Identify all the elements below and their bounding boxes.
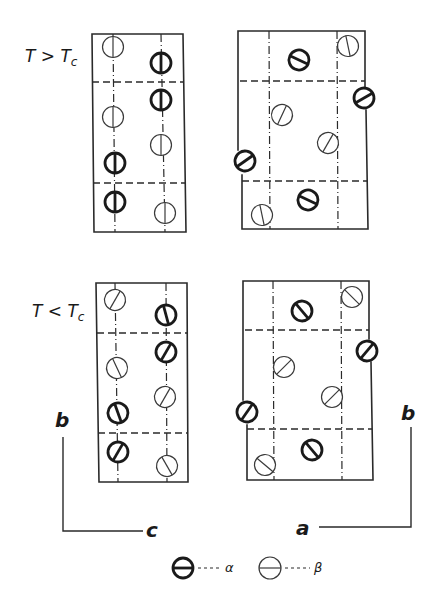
dashed-line-vertical [273,281,274,480]
alpha-atom-icon [353,337,381,365]
axis-label-a: a [296,516,310,540]
alpha-atom-icon [105,153,125,173]
beta-atom-icon [103,107,124,128]
panel-below-ab [233,281,381,480]
dashed-line-vertical [337,31,338,229]
alpha-atom-icon [288,297,316,325]
axis-ab-lines [319,427,411,527]
legend-alpha-label: α [225,560,234,575]
alpha-atom-icon [104,438,131,465]
beta-atom-icon [155,203,176,224]
alpha-atom-icon [233,398,261,426]
beta-atom-icon [250,450,280,480]
alpha-atom-icon [154,303,178,327]
beta-atom-icon [153,452,182,481]
dashed-line-vertical [269,31,270,229]
alpha-atom-icon [105,400,131,426]
beta-atom-icon [336,34,361,59]
alpha-atom-icon [298,436,326,464]
alpha-atom-icon [152,338,179,365]
panel-below-bc [96,283,188,482]
axes-ab: b a [296,401,415,540]
axis-label-b-left: b [55,408,69,432]
beta-atom-icon [317,382,347,412]
alpha-atom-icon [231,147,259,175]
alpha-atom-icon [151,53,171,73]
alpha-atom-icon [286,47,313,74]
beta-atom-icon [151,135,172,156]
alpha-atom-icon [105,192,125,212]
beta-atom-icon [250,203,275,228]
axes-bc: b c [55,408,158,542]
legend-beta-atom-icon [259,557,281,579]
panel-above-ab [231,31,378,229]
dashed-line-vertical [341,281,342,480]
beta-atom-icon [151,383,180,412]
alpha-atom-icon [151,90,171,110]
label-above-tc: T > Tc [25,46,78,69]
axis-bc-lines [63,437,143,531]
beta-atom-icon [101,286,130,315]
axis-label-b-right: b [401,401,415,425]
beta-atom-icon [103,37,124,58]
legend-beta-label: β [313,560,322,575]
beta-atom-icon [103,354,131,382]
beta-atom-icon [268,101,296,129]
unit-cell-panels [92,31,381,482]
panel-above-bc [92,34,186,232]
crystal-structure-diagram: T > Tc T < Tc b c b a α β [0,0,434,606]
axis-label-c: c [146,518,158,542]
alpha-atom-icon [350,84,377,111]
legend: α β [173,557,322,579]
label-below-tc: T < Tc [32,301,85,324]
legend-alpha-atom-icon [173,558,193,578]
alpha-atom-icon [295,187,322,214]
